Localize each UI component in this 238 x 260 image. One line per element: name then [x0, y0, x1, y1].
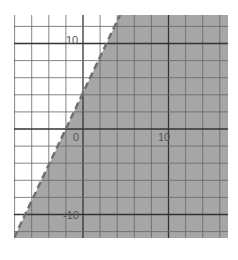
origin-label: 0 [73, 131, 79, 143]
x-tick-10: 10 [158, 131, 170, 143]
y-tick-neg10: -10 [63, 209, 79, 221]
y-tick-10: 10 [66, 34, 78, 46]
inequality-graph: 10 0 10 -10 [0, 0, 238, 260]
